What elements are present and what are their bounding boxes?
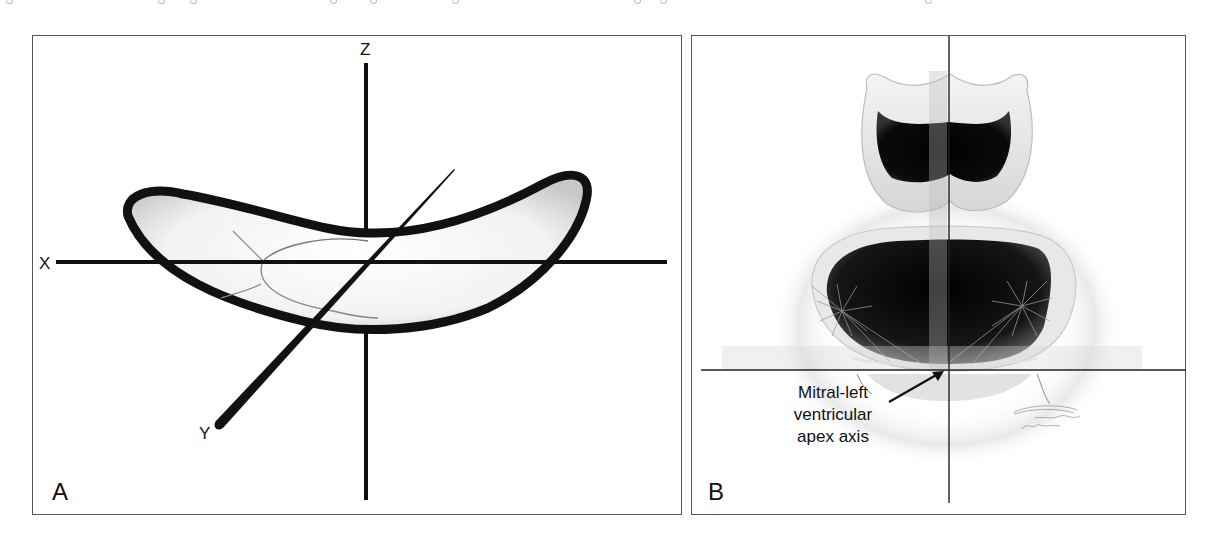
y-axis-label: Y <box>199 425 210 442</box>
saddle-annulus <box>127 175 587 329</box>
annotation-line: Mitral-left <box>768 382 898 404</box>
annotation-line: apex axis <box>768 426 898 448</box>
translucent-column <box>929 71 947 371</box>
panel-a: Z X Y A <box>32 35 682 515</box>
annotation-line: ventricular <box>768 404 898 426</box>
panel-b-label: B <box>708 480 724 504</box>
annotation-label: Mitral-left ventricular apex axis <box>768 382 898 448</box>
x-axis-label: X <box>39 255 50 272</box>
panel-a-label: A <box>52 480 68 504</box>
saddle-annulus-diagram <box>33 36 683 516</box>
cropped-caption-fragment <box>0 0 1211 6</box>
valve-crosshair-diagram <box>692 36 1187 516</box>
panel-b: Mitral-left ventricular apex axis B <box>691 35 1186 515</box>
z-axis-label: Z <box>360 41 370 58</box>
